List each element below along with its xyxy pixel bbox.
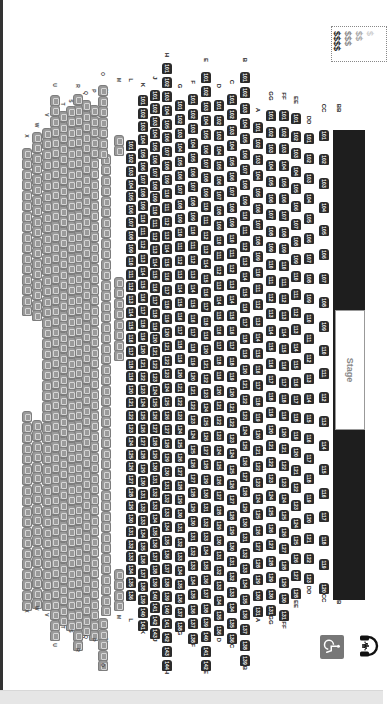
seat[interactable]: 118: [175, 339, 185, 350]
seat[interactable]: 104: [175, 142, 185, 153]
seat[interactable]: [101, 458, 111, 469]
seat[interactable]: 105: [188, 152, 198, 163]
seat[interactable]: 104: [188, 138, 198, 149]
seat[interactable]: 111: [214, 250, 224, 261]
seat[interactable]: 123: [188, 414, 198, 425]
seat[interactable]: 119: [227, 371, 237, 382]
seat[interactable]: 109: [126, 243, 136, 254]
seat[interactable]: [22, 295, 32, 306]
seat[interactable]: 112: [319, 392, 329, 403]
seat[interactable]: 109: [279, 243, 289, 254]
seat[interactable]: 117: [291, 394, 301, 405]
seat[interactable]: 134: [162, 521, 172, 532]
seat[interactable]: [22, 579, 32, 590]
seat[interactable]: 112: [126, 281, 136, 292]
seat[interactable]: 134: [126, 564, 136, 575]
seat[interactable]: 131: [214, 550, 224, 561]
seat[interactable]: 103: [175, 128, 185, 139]
seat[interactable]: [101, 448, 111, 459]
seat[interactable]: [32, 588, 42, 599]
seat[interactable]: 109: [266, 242, 276, 253]
seat[interactable]: 123: [279, 477, 289, 488]
seat[interactable]: 121: [266, 440, 276, 451]
seat[interactable]: 127: [138, 436, 148, 447]
seat[interactable]: 129: [240, 502, 250, 513]
seat[interactable]: 136: [126, 590, 136, 601]
seat[interactable]: [101, 353, 111, 364]
seat[interactable]: 112: [150, 231, 160, 242]
seat[interactable]: 129: [279, 577, 289, 588]
seat[interactable]: 110: [227, 233, 237, 244]
seat[interactable]: [32, 567, 42, 578]
seat[interactable]: 125: [227, 464, 237, 475]
seat[interactable]: 115: [291, 359, 301, 370]
seat[interactable]: 120: [214, 385, 224, 396]
seat[interactable]: 117: [150, 295, 160, 306]
seat[interactable]: [42, 264, 52, 275]
seat[interactable]: [42, 348, 52, 359]
seat[interactable]: 105: [201, 129, 211, 140]
seat[interactable]: [101, 406, 111, 417]
seat[interactable]: [42, 254, 52, 265]
seat[interactable]: [32, 546, 42, 557]
seat[interactable]: 112: [304, 353, 314, 364]
seat[interactable]: 132: [126, 539, 136, 550]
seat[interactable]: 106: [253, 203, 263, 214]
seat[interactable]: 135: [150, 526, 160, 537]
seat[interactable]: 129: [201, 474, 211, 485]
seat[interactable]: [101, 332, 111, 343]
seat[interactable]: 125: [240, 440, 250, 451]
seat[interactable]: 116: [291, 377, 301, 388]
seat[interactable]: [22, 443, 32, 454]
seat[interactable]: 139: [201, 617, 211, 628]
seat[interactable]: 113: [175, 269, 185, 280]
seat[interactable]: 110: [188, 225, 198, 236]
seat[interactable]: 106: [175, 170, 185, 181]
seat[interactable]: 105: [150, 141, 160, 152]
seat[interactable]: 125: [138, 410, 148, 421]
seat[interactable]: 127: [126, 474, 136, 485]
seat[interactable]: 107: [291, 219, 301, 230]
wheelchair-accessible-button[interactable]: [320, 635, 344, 659]
seat[interactable]: 102: [150, 103, 160, 114]
seat[interactable]: 108: [319, 297, 329, 308]
seat[interactable]: 126: [201, 431, 211, 442]
seat[interactable]: 101: [188, 94, 198, 105]
seat[interactable]: 108: [150, 180, 160, 191]
seat[interactable]: 113: [253, 316, 263, 327]
seat[interactable]: [42, 233, 52, 244]
seat[interactable]: [32, 310, 42, 321]
seat[interactable]: [32, 556, 42, 567]
seat[interactable]: 115: [126, 320, 136, 331]
seat[interactable]: 118: [279, 393, 289, 404]
seat[interactable]: 112: [240, 241, 250, 252]
seat[interactable]: 118: [266, 391, 276, 402]
seat[interactable]: 120: [279, 427, 289, 438]
seat[interactable]: [42, 243, 52, 254]
seat[interactable]: [114, 590, 124, 601]
seat[interactable]: 133: [201, 531, 211, 542]
seat[interactable]: 119: [175, 353, 185, 364]
seat[interactable]: 136: [188, 604, 198, 615]
seat[interactable]: 115: [266, 341, 276, 352]
seat[interactable]: 105: [279, 177, 289, 188]
seat[interactable]: 118: [227, 356, 237, 367]
seat[interactable]: 107: [240, 164, 250, 175]
seat[interactable]: 101: [126, 140, 136, 151]
seat[interactable]: 124: [214, 445, 224, 456]
seat[interactable]: [22, 232, 32, 243]
seat[interactable]: 120: [201, 344, 211, 355]
seat[interactable]: 124: [150, 385, 160, 396]
seat[interactable]: 134: [150, 513, 160, 524]
seat[interactable]: 116: [253, 364, 263, 375]
seat[interactable]: [22, 263, 32, 274]
seat[interactable]: 114: [240, 271, 250, 282]
seat[interactable]: 114: [162, 243, 172, 254]
seat[interactable]: 111: [126, 269, 136, 280]
seat[interactable]: [98, 117, 108, 128]
seat[interactable]: 114: [126, 307, 136, 318]
seat[interactable]: 104: [319, 202, 329, 213]
seat[interactable]: 125: [291, 535, 301, 546]
seat[interactable]: 109: [240, 195, 250, 206]
seat[interactable]: 124: [227, 448, 237, 459]
